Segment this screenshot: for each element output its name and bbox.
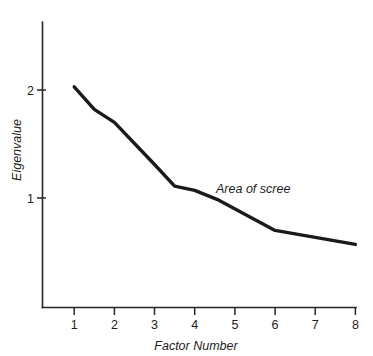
- x-axis-title: Factor Number: [154, 339, 238, 353]
- x-tick-label-5: 5: [231, 318, 238, 332]
- x-tick-label-3: 3: [151, 318, 158, 332]
- area-of-scree-annotation: Area of scree: [215, 182, 290, 196]
- plot-background: [0, 0, 373, 356]
- y-axis-title: Eigenvalue: [10, 119, 24, 181]
- x-tick-label-8: 8: [352, 318, 359, 332]
- x-tick-label-1: 1: [71, 318, 78, 332]
- x-tick-label-6: 6: [272, 318, 279, 332]
- y-tick-label-2: 2: [27, 84, 34, 98]
- scree-plot-figure: 2 1 1 2 3 4 5 6 7 8 Factor Number Eigenv…: [0, 0, 373, 356]
- x-tick-label-2: 2: [111, 318, 118, 332]
- x-tick-label-7: 7: [312, 318, 319, 332]
- scree-plot-canvas: 2 1 1 2 3 4 5 6 7 8 Factor Number Eigenv…: [0, 0, 373, 356]
- x-tick-label-4: 4: [191, 318, 198, 332]
- y-tick-label-1: 1: [27, 192, 34, 206]
